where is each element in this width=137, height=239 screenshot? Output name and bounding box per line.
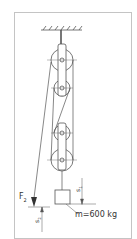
pulley-diagram bbox=[0, 0, 137, 239]
upper-pulley-block bbox=[47, 44, 77, 96]
force-label: F2 bbox=[19, 193, 27, 203]
force-arrow-icon bbox=[31, 197, 37, 207]
mass-block bbox=[55, 190, 70, 204]
mass-label: m=600 kg bbox=[75, 211, 117, 219]
s2-label: s2 bbox=[34, 217, 42, 223]
ceiling-support-icon bbox=[41, 26, 82, 44]
s1-label: s1 bbox=[75, 186, 83, 192]
